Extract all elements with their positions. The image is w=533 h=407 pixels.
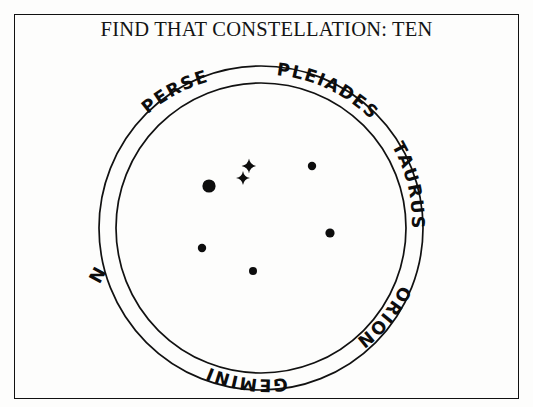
star-dot	[202, 179, 215, 192]
ring-label-perseus-text: PERSEUS	[0, 0, 211, 117]
ring-label-taurus: TAURUS	[388, 138, 428, 230]
page-root: FIND THAT CONSTELLATION: TEN PERSEUS PLE…	[0, 0, 533, 407]
ring-label-orion-text: ORION	[353, 283, 416, 353]
sparkle-star-icon	[242, 159, 257, 174]
star-dot	[308, 162, 316, 170]
ring-label-taurus-text: TAURUS	[388, 138, 428, 230]
star-dot	[198, 244, 206, 252]
ring-label-perseus: PERSEUS	[0, 0, 211, 117]
ring-label-orion: ORION	[353, 283, 416, 353]
sparkle-star-icon	[236, 171, 250, 185]
ring-label-gemini: GEMINI	[202, 363, 289, 395]
star-chart-diagram: PERSEUS PLEIADES TAURUS ORION GEMINI N	[0, 0, 533, 407]
ring-label-gemini-text: GEMINI	[202, 363, 289, 395]
star-dot	[249, 267, 257, 275]
star-dot	[325, 228, 334, 237]
north-direction-marker: N	[84, 263, 110, 286]
